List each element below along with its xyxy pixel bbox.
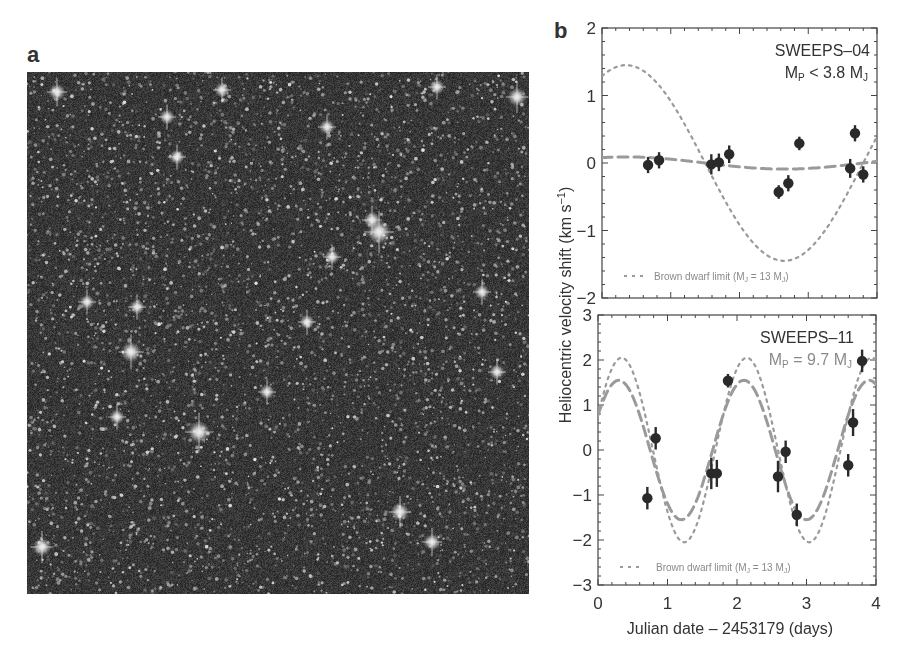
data-point xyxy=(794,138,804,148)
y-tick-label: −2 xyxy=(573,531,592,550)
brown-dwarf-limit-curve xyxy=(602,65,877,261)
top-mass-annotation: MP < 3.8 MJ xyxy=(785,64,868,83)
data-point xyxy=(850,128,860,138)
x-tick-label: 2 xyxy=(732,594,741,613)
x-tick-label: 0 xyxy=(593,594,602,613)
top-legend-text: Brown dwarf limit (MJ = 13 MJ) xyxy=(654,271,789,283)
best-fit-curve xyxy=(598,380,876,520)
bottom-legend-text: Brown dwarf limit (MJ = 13 MJ) xyxy=(656,562,791,574)
data-point xyxy=(654,155,664,165)
x-tick-label: 4 xyxy=(871,594,880,613)
y-tick-label: 2 xyxy=(583,351,592,370)
data-point xyxy=(723,376,733,386)
data-point xyxy=(724,149,734,159)
y-tick-label: 1 xyxy=(587,87,596,106)
data-point xyxy=(858,169,868,179)
data-point xyxy=(642,493,652,503)
data-point xyxy=(643,160,653,170)
data-point xyxy=(712,468,722,478)
y-tick-label: 2 xyxy=(587,19,596,38)
brown-dwarf-limit-curve xyxy=(598,358,876,543)
data-point xyxy=(650,433,660,443)
data-point xyxy=(792,510,802,520)
data-point xyxy=(780,447,790,457)
y-tick-label: 3 xyxy=(583,306,592,325)
data-point xyxy=(843,460,853,470)
y-tick-label: −1 xyxy=(573,486,592,505)
best-fit-curve xyxy=(602,157,877,169)
radial-velocity-charts: −2−1012 −3−2−1012301234 Julian date – 24… xyxy=(0,0,902,661)
y-tick-label: 0 xyxy=(583,441,592,460)
top-star-name: SWEEPS–04 xyxy=(775,42,870,59)
x-axis-title: Julian date – 2453179 (days) xyxy=(627,620,833,637)
y-tick-label: −1 xyxy=(577,222,596,241)
sweeps-04-plot: −2−1012 xyxy=(577,19,877,308)
data-point xyxy=(857,356,867,366)
x-tick-label: 1 xyxy=(663,594,672,613)
data-point xyxy=(848,417,858,427)
data-point xyxy=(773,187,783,197)
data-point xyxy=(845,163,855,173)
bottom-star-name: SWEEPS–11 xyxy=(760,329,854,346)
y-axis-title: Heliocentric velocity shift (km s−1) xyxy=(555,187,574,424)
y-tick-label: 1 xyxy=(583,396,592,415)
data-point xyxy=(783,178,793,188)
y-tick-label: −3 xyxy=(573,576,592,595)
data-point xyxy=(714,157,724,167)
bottom-mass-annotation: MP = 9.7 MJ xyxy=(769,351,852,370)
data-point xyxy=(773,471,783,481)
x-tick-label: 3 xyxy=(802,594,811,613)
y-tick-label: 0 xyxy=(587,154,596,173)
